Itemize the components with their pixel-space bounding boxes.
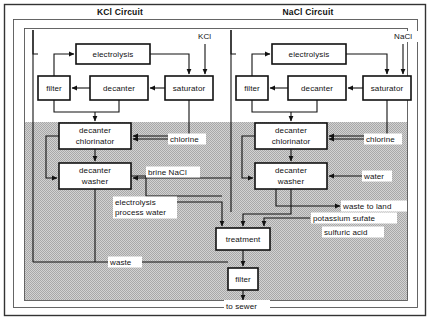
electrolysis-process-water-label-line1: electrolysis <box>115 198 156 207</box>
node-nacl-decanter[interactable]: decanter <box>288 76 346 100</box>
nacl-saturator-label: saturator <box>371 84 404 93</box>
node-kcl-decanter-washer[interactable]: decanter washer <box>59 163 131 189</box>
nacl-decanter-washer-label-line1: decanter <box>275 166 307 175</box>
kcl-decanter-underflow <box>95 100 119 112</box>
process-flow-diagram-root: KCl Circuit NaCl Circuit <box>0 0 430 320</box>
kcl-circuit-title: KCl Circuit <box>97 7 143 17</box>
sulfuric-acid-label: sulfuric acid <box>324 228 368 237</box>
nacl-electrolysis-label: electrolysis <box>289 50 330 59</box>
node-kcl-decanter-chlorinator[interactable]: decanter chlorinator <box>59 123 131 149</box>
kcl-decanter-chlorinator-label-line1: decanter <box>79 126 111 135</box>
kcl-filter-to-electrolysis <box>54 54 74 76</box>
kcl-decanter-label: decanter <box>103 84 135 93</box>
to-sewer-label: to sewer <box>226 302 257 311</box>
kcl-electrolysis-label: electrolysis <box>93 50 134 59</box>
nacl-decanter-washer-label-line2: washer <box>277 177 305 186</box>
potassium-sulfate-label: potassium sufate <box>313 214 376 223</box>
kcl-electrolysis-to-saturator <box>150 54 189 74</box>
kcl-feed-label: KCl <box>198 32 211 41</box>
kcl-recycle-to-filter <box>33 30 38 54</box>
nacl-filter-label: filter <box>244 84 260 93</box>
nacl-decanter-chlorinator-label-line1: decanter <box>275 126 307 135</box>
node-bottom-filter[interactable]: filter <box>228 268 258 290</box>
bottom-filter-label: filter <box>235 275 251 284</box>
nacl-electrolysis-to-saturator <box>346 54 387 74</box>
node-kcl-saturator[interactable]: saturator <box>165 76 213 100</box>
nacl-recycle-to-filter <box>231 30 236 54</box>
nacl-decanter-label: decanter <box>301 84 333 93</box>
waste-to-land-label: waste to land <box>342 202 391 211</box>
nacl-filter-to-electrolysis <box>252 54 270 76</box>
node-kcl-filter[interactable]: filter <box>38 76 70 100</box>
chlorine-kcl-label: chlorine <box>170 135 199 144</box>
chlorine-nacl-label: chlorine <box>366 135 395 144</box>
waste-label: waste <box>109 258 132 267</box>
water-label: water <box>363 172 384 181</box>
circuit-titles: KCl Circuit NaCl Circuit <box>97 7 334 17</box>
kcl-decanter-chlorinator-label-line2: chlorinator <box>76 137 115 146</box>
kcl-saturator-label: saturator <box>173 84 206 93</box>
node-nacl-electrolysis[interactable]: electrolysis <box>272 44 346 64</box>
node-nacl-filter[interactable]: filter <box>236 76 268 100</box>
kcl-filter-underflow <box>54 100 95 112</box>
kcl-decanter-washer-label-line1: decanter <box>79 166 111 175</box>
node-nacl-decanter-chlorinator[interactable]: decanter chlorinator <box>255 123 327 149</box>
brine-nacl-label: brine NaCl <box>148 168 187 177</box>
flow-diagram-canvas: KCl Circuit NaCl Circuit <box>0 0 430 320</box>
treatment-label: treatment <box>226 235 261 244</box>
node-treatment[interactable]: treatment <box>216 228 270 250</box>
nacl-feed-label: NaCl <box>394 32 412 41</box>
nacl-decanter-chlorinator-label-line2: chlorinator <box>272 137 311 146</box>
node-nacl-saturator[interactable]: saturator <box>363 76 411 100</box>
nacl-circuit-title: NaCl Circuit <box>282 7 333 17</box>
node-nacl-decanter-washer[interactable]: decanter washer <box>255 163 327 189</box>
node-kcl-electrolysis[interactable]: electrolysis <box>76 44 150 64</box>
nacl-filter-underflow <box>252 100 291 112</box>
electrolysis-process-water-label-line2: process water <box>115 208 166 217</box>
kcl-decanter-washer-label-line2: washer <box>81 177 109 186</box>
node-kcl-decanter[interactable]: decanter <box>90 76 148 100</box>
kcl-filter-label: filter <box>46 84 62 93</box>
nacl-decanter-underflow <box>291 100 317 112</box>
